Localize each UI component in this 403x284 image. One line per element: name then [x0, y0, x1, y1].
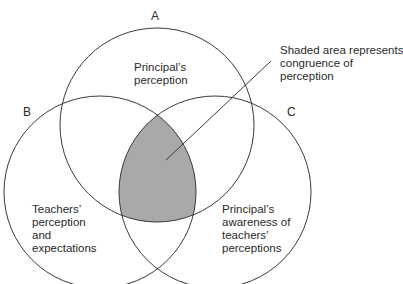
circle-c-label: Principal’s awareness of teachers’ perce…	[222, 203, 290, 255]
shaded-congruence-area	[60, 28, 254, 222]
circle-a-label: Principal’s perception	[134, 61, 188, 87]
circle-c-letter: C	[287, 105, 296, 119]
circle-a-letter: A	[151, 9, 159, 23]
annotation-text: Shaded area represents congruence of per…	[280, 44, 403, 83]
circle-b-label: Teachers’ perception and expectations	[32, 203, 97, 255]
circle-b-letter: B	[23, 105, 31, 119]
